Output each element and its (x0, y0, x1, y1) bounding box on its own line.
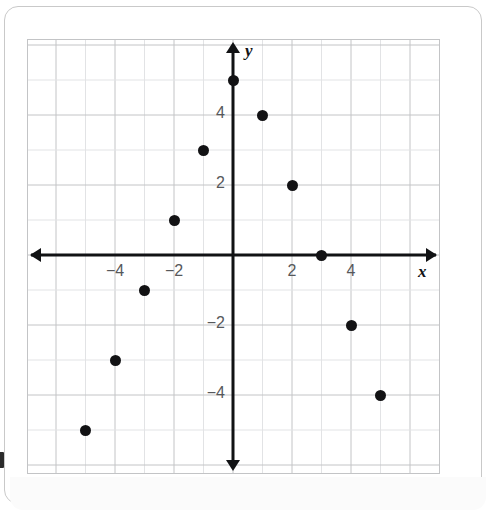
worksheet-card: −4−22442−2−4 x y (4, 6, 482, 504)
x-tick-label: −2 (158, 262, 190, 280)
y-tick-label: 4 (195, 104, 225, 122)
y-tick-label: −2 (195, 314, 225, 332)
grid-and-axes (27, 39, 440, 474)
data-point (228, 75, 239, 86)
data-point (346, 320, 357, 331)
x-axis-label: x (418, 262, 427, 282)
page-edge-glyph (0, 452, 4, 468)
data-point (257, 110, 268, 121)
y-axis-label: y (245, 41, 253, 61)
data-point (80, 425, 91, 436)
data-point (287, 180, 298, 191)
coordinate-plane: −4−22442−2−4 x y (27, 39, 440, 474)
data-point (198, 145, 209, 156)
data-point (139, 285, 150, 296)
x-tick-label: 2 (276, 262, 308, 280)
data-point (316, 250, 327, 261)
x-tick-label: 4 (335, 262, 367, 280)
data-point (110, 355, 121, 366)
data-point (169, 215, 180, 226)
card-bottom-band (10, 477, 486, 510)
x-tick-label: −4 (99, 262, 131, 280)
data-point (375, 390, 386, 401)
y-tick-label: −4 (195, 384, 225, 402)
y-tick-label: 2 (195, 174, 225, 192)
